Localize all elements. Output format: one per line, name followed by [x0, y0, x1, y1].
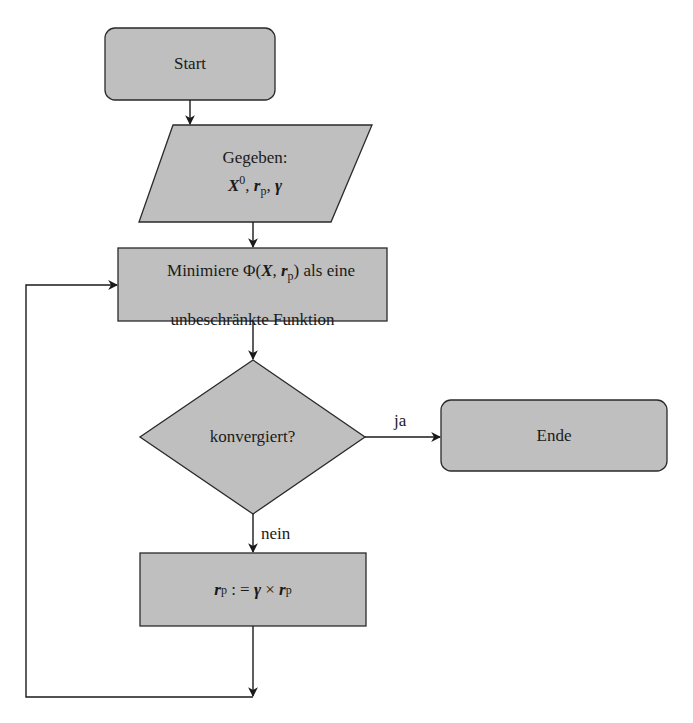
update-rhs-r: r: [279, 579, 286, 601]
edge-label-ja: ja: [394, 411, 406, 431]
input-label: Gegeben: X0, rp, γ: [150, 135, 360, 213]
minimize-label: Minimiere Φ(X, rp) als eine unbeschränkt…: [118, 248, 387, 321]
update-gamma: γ: [254, 579, 261, 601]
minimize-suffix: ) als eine: [294, 261, 355, 280]
decision-label: konvergiert?: [140, 420, 365, 454]
end-text: Ende: [537, 425, 572, 447]
input-line2: X0, rp, γ: [228, 169, 282, 202]
update-lhs-r: r: [214, 579, 221, 601]
sep1: ,: [245, 176, 254, 195]
update-assign: : =: [227, 579, 254, 601]
edge-label-nein: nein: [261, 524, 290, 544]
start-label: Start: [105, 28, 275, 100]
end-label: Ende: [441, 400, 667, 471]
update-times: ×: [261, 579, 279, 601]
minimize-var-r: r: [281, 261, 288, 280]
var-x: X: [228, 176, 239, 195]
minimize-var-x: X: [261, 261, 272, 280]
minimize-prefix: Minimiere Φ(: [167, 261, 261, 280]
update-label: rp : = γ × rp: [140, 553, 366, 626]
minimize-line1: Minimiere Φ(X, rp) als eine: [150, 238, 355, 309]
var-gamma: γ: [275, 176, 282, 195]
input-line1: Gegeben:: [222, 147, 287, 169]
sep2: ,: [266, 176, 275, 195]
minimize-comma: ,: [272, 261, 281, 280]
start-text: Start: [174, 53, 206, 75]
update-rhs-sub: p: [286, 579, 292, 601]
decision-text: konvergiert?: [210, 426, 296, 448]
minimize-line2: unbeschränkte Funktion: [171, 309, 335, 331]
